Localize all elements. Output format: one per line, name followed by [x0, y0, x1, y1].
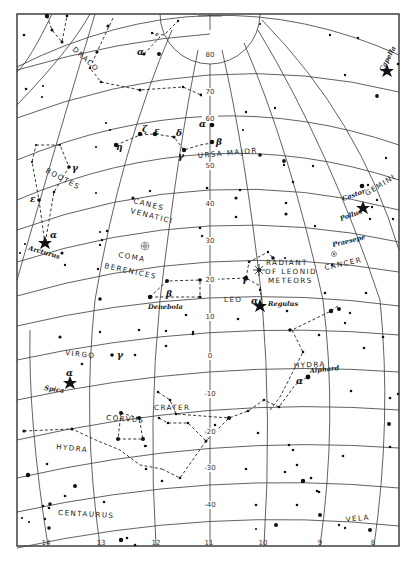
star-name-label: Regulus	[267, 300, 298, 308]
greek-letter-label: ε	[154, 126, 160, 136]
greek-letter-label: δ	[175, 128, 182, 138]
greek-letter-label: γ	[178, 151, 185, 161]
declination-label: 50	[206, 162, 215, 170]
declination-label: -10	[204, 390, 215, 398]
greek-letter-label: α	[137, 47, 144, 57]
declination-label: -30	[204, 464, 215, 472]
constellation-label: LEO	[224, 295, 242, 304]
greek-letter-label: ε	[30, 194, 36, 204]
declination-label: 30	[206, 237, 215, 245]
right-ascension-label: 13	[97, 539, 106, 547]
greek-letter-label: η	[116, 142, 123, 152]
declination-label: 10	[206, 313, 215, 321]
right-ascension-label: 10	[259, 539, 268, 547]
right-ascension-label: 8	[371, 539, 375, 547]
radiant-label: RADIANT	[266, 258, 308, 267]
declination-label: -40	[204, 501, 215, 509]
constellation-label: CRATER	[154, 403, 190, 412]
greek-letter-label: γ	[242, 274, 249, 284]
greek-letter-label: ζ	[142, 124, 148, 134]
greek-letter-label: α	[50, 230, 57, 240]
greek-letter-label: α	[251, 296, 258, 306]
right-ascension-label: 9	[318, 539, 322, 547]
right-ascension-label: 12	[152, 539, 161, 547]
declination-label: 0	[208, 352, 212, 360]
radiant-label: METEORS	[268, 276, 313, 285]
radiant-label: OF LEONID	[265, 267, 317, 276]
declination-label: 80	[206, 51, 215, 59]
star-name-label: Denebola	[147, 303, 183, 311]
greek-letter-label: α	[66, 368, 73, 378]
greek-letter-label: β	[215, 137, 222, 147]
greek-letter-label: γ	[117, 350, 124, 360]
greek-letter-label: α	[199, 119, 206, 129]
declination-label: 20	[206, 276, 215, 284]
greek-letter-label: α	[296, 376, 303, 386]
declination-label: 70	[206, 88, 215, 96]
right-ascension-label: 11	[205, 539, 214, 547]
right-ascension-label: 14	[42, 539, 51, 547]
coma-cluster-icon	[141, 242, 149, 250]
star-chart: 80706050403020100-10-20-30-4014131211109…	[0, 0, 417, 561]
greek-letter-label: β	[165, 289, 172, 299]
declination-label: -20	[204, 428, 215, 436]
declination-label: 60	[206, 115, 215, 123]
greek-letter-label: γ	[72, 163, 79, 173]
declination-label: 40	[206, 200, 215, 208]
